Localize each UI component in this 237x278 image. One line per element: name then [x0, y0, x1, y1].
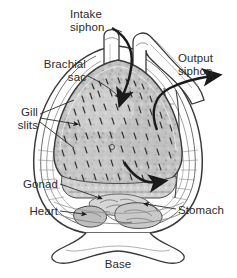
heart [74, 206, 107, 227]
label-intake-siphon: Intake siphon [70, 8, 105, 33]
label-output-siphon: Output siphon [178, 52, 213, 77]
anatomy-figure: Intake siphon Output siphon Brachial sac… [0, 0, 237, 278]
label-gill-slits: Gill slits [2, 106, 38, 131]
label-heart: Heart [6, 205, 58, 218]
tunicate-diagram-illustration [0, 0, 237, 278]
label-stomach: Stomach [178, 204, 224, 217]
label-base: Base [88, 258, 148, 271]
label-brachial-sac: Brachial sac [6, 58, 86, 83]
label-gonad: Gonad [6, 178, 58, 191]
